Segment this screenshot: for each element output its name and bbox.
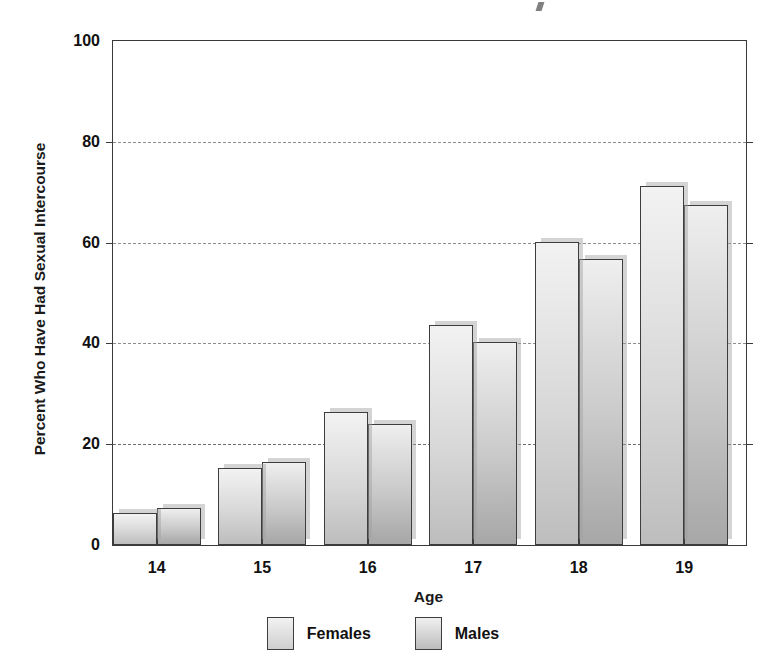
bar-males-age-19[interactable]	[684, 41, 728, 545]
bar-females-age-14[interactable]	[113, 41, 157, 545]
bar-males-age-16[interactable]	[368, 41, 412, 545]
bar-rect	[368, 424, 412, 545]
bar-rect	[535, 242, 579, 545]
y-tick-label-80: 80	[82, 133, 100, 151]
x-tick-label-18: 18	[526, 559, 632, 577]
bar-rect	[113, 513, 157, 545]
y-tick-label-0: 0	[91, 536, 100, 554]
bar-rect	[324, 412, 368, 545]
bar-females-age-19[interactable]	[640, 41, 684, 545]
x-tick-label-16: 16	[315, 559, 421, 577]
bar-males-age-17[interactable]	[473, 41, 517, 545]
bar-group-age-15: 15	[219, 41, 325, 545]
y-tick-mark-right-80	[746, 142, 753, 143]
y-tick-mark-right-40	[746, 343, 753, 344]
bar-group-age-17: 17	[430, 41, 536, 545]
y-axis-title: Percent Who Have Had Sexual Intercourse	[31, 49, 49, 549]
bar-rect	[262, 462, 306, 545]
bar-females-age-18[interactable]	[535, 41, 579, 545]
y-tick-label-60: 60	[82, 234, 100, 252]
male-swatch	[415, 617, 442, 650]
bar-females-age-16[interactable]	[324, 41, 368, 545]
cropped-title-remnant	[536, 2, 545, 11]
x-tick-label-14: 14	[104, 559, 210, 577]
legend-entry-females[interactable]: Females	[267, 617, 371, 650]
chart-legend: FemalesMales	[0, 617, 766, 650]
bar-group-age-14: 14	[113, 41, 219, 545]
x-tick-label-15: 15	[210, 559, 316, 577]
female-swatch	[267, 617, 294, 650]
bar-rect	[684, 205, 728, 545]
bar-females-age-15[interactable]	[218, 41, 262, 545]
bar-rect	[157, 508, 201, 545]
bar-group-age-19: 19	[641, 41, 747, 545]
legend-label: Males	[455, 625, 499, 643]
x-tick-label-17: 17	[421, 559, 527, 577]
bar-group-age-16: 16	[324, 41, 430, 545]
bar-rect	[429, 325, 473, 545]
y-tick-mark-right-60	[746, 243, 753, 244]
bar-rect	[579, 259, 623, 545]
y-tick-label-100: 100	[73, 32, 100, 50]
bar-rect	[473, 342, 517, 545]
x-axis-title: Age	[112, 588, 745, 606]
bar-rect	[640, 186, 684, 545]
bar-males-age-15[interactable]	[262, 41, 306, 545]
legend-label: Females	[307, 625, 371, 643]
bar-group-age-18: 18	[535, 41, 641, 545]
chart-figure: Percent Who Have Had Sexual Intercourse …	[0, 0, 766, 669]
y-tick-label-20: 20	[82, 435, 100, 453]
legend-entry-males[interactable]: Males	[415, 617, 499, 650]
x-tick-label-19: 19	[632, 559, 738, 577]
plot-area: 020406080100 141516171819	[112, 40, 747, 546]
y-tick-mark-right-20	[746, 444, 753, 445]
bar-rect	[218, 468, 262, 545]
bar-males-age-18[interactable]	[579, 41, 623, 545]
bar-females-age-17[interactable]	[429, 41, 473, 545]
y-tick-label-40: 40	[82, 334, 100, 352]
bar-males-age-14[interactable]	[157, 41, 201, 545]
